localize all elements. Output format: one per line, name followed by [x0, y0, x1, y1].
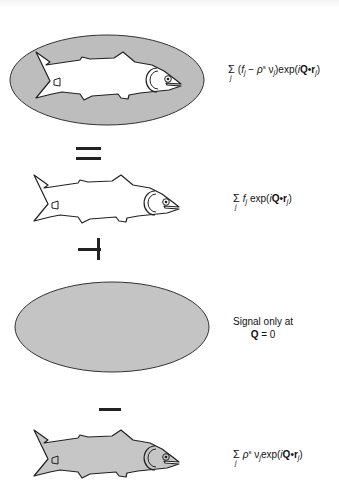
- equals-operator: [76, 147, 101, 150]
- formula-fish-in-solvent: Σj(fj − ρs νj)exp(iQ•rj): [228, 61, 320, 79]
- solvent-ellipse-2: [15, 282, 209, 372]
- formula-fish-in-vacuum: Σjfj exp(iQ•rj): [233, 192, 292, 208]
- formula-displaced-solvent: Σjρs νjexp(iQ•rj): [233, 446, 303, 464]
- signal-note: Signal only at Q = 0: [233, 315, 293, 341]
- minus-operator: [99, 408, 121, 411]
